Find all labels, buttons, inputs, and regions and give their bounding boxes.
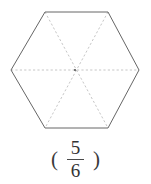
open-paren: ( — [42, 149, 67, 170]
fraction-numerator: 5 — [71, 138, 81, 158]
close-paren: ) — [84, 149, 109, 170]
fraction-label: ( 5 6 ) — [0, 134, 151, 184]
fraction: 5 6 — [67, 138, 84, 181]
hexagon-diagram — [0, 0, 151, 138]
fraction-denominator: 6 — [71, 161, 81, 181]
hexagon-center-point — [74, 69, 76, 71]
fraction-figure: ( 5 6 ) — [0, 0, 151, 184]
